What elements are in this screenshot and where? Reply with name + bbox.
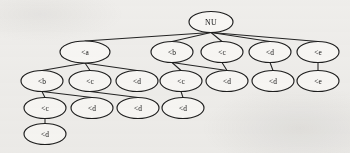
tree-node[interactable]: <d [252,71,294,92]
tree-node[interactable]: <c [69,71,111,92]
tree-diagram-canvas: NU<a<b<c<d<e<b<c<d<c<d<d<e<c<d<d<d<d [0,0,350,153]
tree-edge [42,92,45,98]
tree-node[interactable]: <d [206,71,248,92]
tree-node[interactable]: <d [117,98,159,119]
node-label: <e [314,77,322,86]
tree-edge [222,63,227,71]
node-label: <c [86,77,94,86]
tree-edge [85,63,137,71]
tree-edge [181,92,183,98]
node-label: <c [177,77,185,86]
tree-edge [42,63,85,71]
tree-edge [42,92,92,98]
node-label: <a [81,48,89,57]
tree-node[interactable]: <d [71,98,113,119]
node-label: <b [168,48,176,57]
tree-node[interactable]: <b [151,42,193,63]
node-label: <d [41,130,49,139]
node-label: <d [179,104,187,113]
tree-node[interactable]: <c [160,71,202,92]
node-label: <d [266,48,274,57]
node-label: <c [41,104,49,113]
node-label: <c [218,48,226,57]
tree-node[interactable]: <b [21,71,63,92]
node-label: <b [38,77,46,86]
node-label: NU [205,18,217,27]
tree-node[interactable]: <d [24,124,66,145]
tree-diagram-figure: NU<a<b<c<d<e<b<c<d<c<d<d<e<c<d<d<d<d [0,0,350,153]
node-label: <d [88,104,96,113]
tree-node[interactable]: <d [116,71,158,92]
tree-node-root[interactable]: NU [189,12,233,33]
nodes-layer: NU<a<b<c<d<e<b<c<d<c<d<d<e<c<d<d<d<d [21,12,339,145]
tree-edge [90,92,138,98]
node-label: <d [133,77,141,86]
node-label: <e [314,48,322,57]
node-label: <d [223,77,231,86]
tree-node[interactable]: <a [60,41,110,63]
tree-node[interactable]: <c [201,42,243,63]
tree-node[interactable]: <d [162,98,204,119]
tree-node[interactable]: <e [297,42,339,63]
tree-edge [270,63,273,71]
tree-node[interactable]: <e [297,71,339,92]
tree-node[interactable]: <d [249,42,291,63]
node-label: <d [134,104,142,113]
node-label: <d [269,77,277,86]
tree-node[interactable]: <c [24,98,66,119]
